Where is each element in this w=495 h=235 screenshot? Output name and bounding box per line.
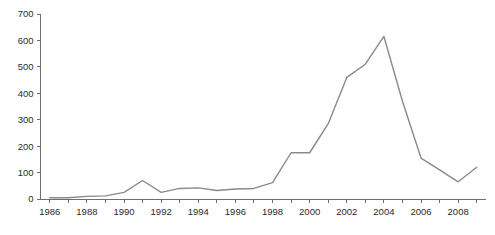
y-tick-label: 100 [18,167,34,178]
x-tick-label: 1988 [76,206,97,217]
x-axis-tick-labels: 1986198819901992199419961998200020022004… [39,206,469,217]
y-tick-label: 600 [18,35,34,46]
x-tick-label: 1986 [39,206,60,217]
x-tick-label: 2002 [336,206,357,217]
x-axis-tick-marks [50,199,477,203]
data-series-line [50,36,477,197]
y-tick-label: 300 [18,114,34,125]
y-tick-label: 200 [18,141,34,152]
chart-canvas: 0100200300400500600700 19861988199019921… [0,0,495,235]
y-axis-tick-marks [37,14,41,199]
x-tick-label: 2008 [448,206,469,217]
x-tick-label: 1994 [188,206,209,217]
y-tick-label: 500 [18,61,34,72]
y-tick-label: 0 [28,193,33,204]
x-tick-label: 1990 [113,206,134,217]
x-tick-label: 2006 [410,206,431,217]
x-tick-label: 1996 [225,206,246,217]
x-tick-label: 1998 [262,206,283,217]
y-axis-tick-labels: 0100200300400500600700 [18,8,34,204]
x-tick-label: 2000 [299,206,320,217]
x-tick-label: 2004 [373,206,394,217]
y-tick-label: 400 [18,88,34,99]
y-tick-label: 700 [18,8,34,19]
line-chart: 0100200300400500600700 19861988199019921… [0,0,495,235]
x-tick-label: 1992 [151,206,172,217]
